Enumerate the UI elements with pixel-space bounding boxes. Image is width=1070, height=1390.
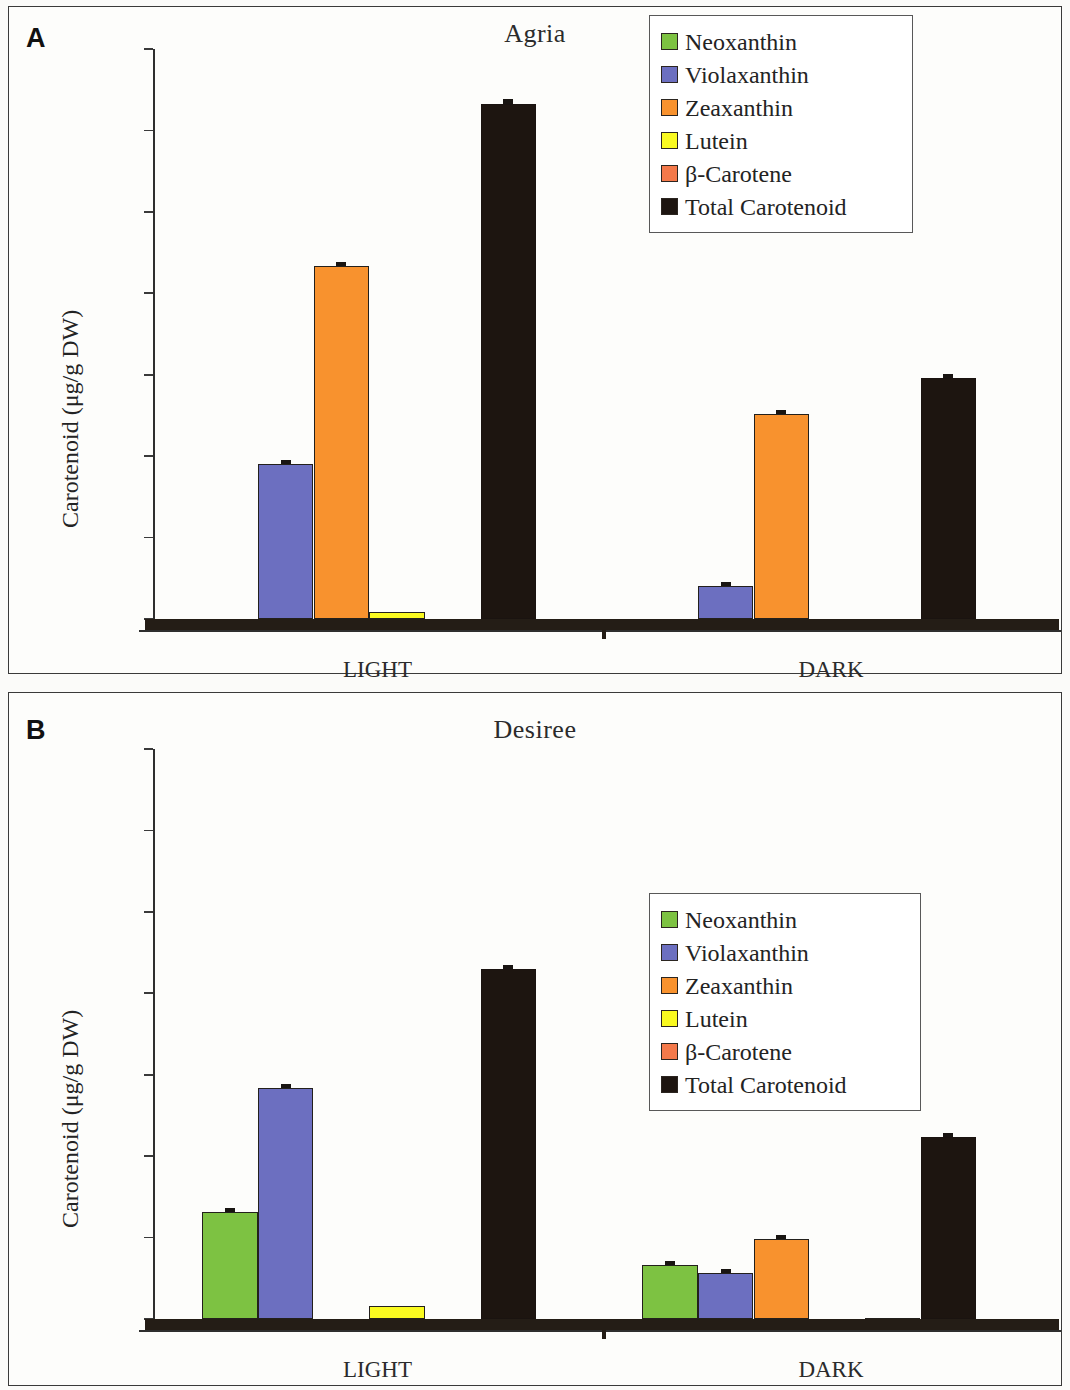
error-bar	[776, 1235, 786, 1239]
y-axis-tick-mark	[144, 992, 153, 994]
legend-swatch-icon	[661, 1043, 678, 1060]
bar-total-carotenoid-dark	[921, 378, 976, 619]
y-axis-tick-mark	[144, 1237, 153, 1239]
x-axis-tick-label-dark: DARK	[798, 657, 863, 683]
y-axis-tick-mark	[144, 830, 153, 832]
bar-total-carotenoid-dark	[921, 1137, 976, 1319]
legend-item-zeaxanthin: Zeaxanthin	[661, 91, 898, 124]
legend-item-label: β-Carotene	[685, 162, 792, 186]
legend-item-neoxanthin: Neoxanthin	[661, 25, 898, 58]
legend-swatch-icon	[661, 1076, 678, 1093]
x-axis-line	[139, 1330, 1061, 1332]
legend-item-label: Violaxanthin	[685, 941, 809, 965]
legend-swatch-icon	[661, 977, 678, 994]
legend-item-label: β-Carotene	[685, 1040, 792, 1064]
x-axis-tick-mark	[602, 630, 606, 639]
y-axis-tick-mark	[144, 211, 153, 213]
legend-swatch-icon	[661, 198, 678, 215]
legend-item-label: Lutein	[685, 1007, 748, 1031]
bar-violaxanthin-dark	[698, 1273, 753, 1319]
y-axis-tick-mark	[144, 292, 153, 294]
legend-swatch-icon	[661, 944, 678, 961]
y-axis-title: Carotenoid (μg/g DW)	[57, 310, 84, 528]
legend-item-label: Neoxanthin	[685, 908, 797, 932]
panel-b-title: Desiree	[9, 715, 1061, 745]
legend-item--carotene: β-Carotene	[661, 157, 898, 190]
legend: NeoxanthinViolaxanthinZeaxanthinLuteinβ-…	[649, 893, 921, 1111]
error-bar	[281, 1084, 291, 1088]
x-axis-tick-mark	[602, 1330, 606, 1339]
error-bar	[336, 262, 346, 266]
legend-item-violaxanthin: Violaxanthin	[661, 936, 906, 969]
bar-zeaxanthin-light	[314, 266, 369, 619]
y-axis-tick-mark	[144, 748, 153, 750]
panel-b: B Desiree 050100150200250300350Carotenoi…	[8, 692, 1062, 1386]
panel-a: A Agria 050100150200250300350Carotenoid …	[8, 6, 1062, 674]
legend-item-label: Lutein	[685, 129, 748, 153]
bar-neoxanthin-light	[202, 1212, 257, 1319]
legend-swatch-icon	[661, 33, 678, 50]
error-bar	[225, 1208, 235, 1212]
legend-item-violaxanthin: Violaxanthin	[661, 58, 898, 91]
x-axis-tick-label-dark: DARK	[798, 1357, 863, 1383]
y-axis-line	[153, 49, 155, 621]
bar-violaxanthin-light	[258, 1088, 313, 1319]
legend-item-total-carotenoid: Total Carotenoid	[661, 1068, 906, 1101]
x-axis-baseline	[145, 619, 1059, 630]
legend-item-label: Zeaxanthin	[685, 96, 793, 120]
legend-item-lutein: Lutein	[661, 124, 898, 157]
y-axis-title: Carotenoid (μg/g DW)	[57, 1010, 84, 1228]
error-bar	[665, 1261, 675, 1265]
error-bar	[503, 965, 513, 969]
legend-swatch-icon	[661, 66, 678, 83]
legend-item-label: Neoxanthin	[685, 30, 797, 54]
legend-item-label: Zeaxanthin	[685, 974, 793, 998]
error-bar	[776, 410, 786, 414]
y-axis-tick-mark	[144, 1074, 153, 1076]
legend-item-lutein: Lutein	[661, 1002, 906, 1035]
legend-swatch-icon	[661, 132, 678, 149]
y-axis-tick-mark	[144, 374, 153, 376]
y-axis-tick-mark	[144, 130, 153, 132]
legend-item-neoxanthin: Neoxanthin	[661, 903, 906, 936]
legend-swatch-icon	[661, 911, 678, 928]
bar-total-carotenoid-light	[481, 104, 536, 619]
bar-zeaxanthin-dark	[754, 414, 809, 619]
legend: NeoxanthinViolaxanthinZeaxanthinLuteinβ-…	[649, 15, 913, 233]
legend-swatch-icon	[661, 1010, 678, 1027]
error-bar	[721, 582, 731, 586]
legend-item-zeaxanthin: Zeaxanthin	[661, 969, 906, 1002]
error-bar	[503, 99, 513, 104]
error-bar	[943, 1133, 953, 1137]
legend-item-total-carotenoid: Total Carotenoid	[661, 190, 898, 223]
bar-lutein-light	[369, 612, 424, 619]
x-axis-tick-label-light: LIGHT	[343, 657, 412, 683]
x-axis-line	[139, 630, 1061, 632]
figure-root: A Agria 050100150200250300350Carotenoid …	[0, 0, 1070, 1390]
y-axis-tick-mark	[144, 455, 153, 457]
bar-zeaxanthin-dark	[754, 1239, 809, 1319]
bar-total-carotenoid-light	[481, 969, 536, 1319]
y-axis-tick-mark	[144, 1155, 153, 1157]
y-axis-tick-mark	[144, 911, 153, 913]
x-axis-baseline	[145, 1319, 1059, 1330]
error-bar	[943, 374, 953, 378]
error-bar	[721, 1269, 731, 1273]
bar-lutein-light	[369, 1306, 424, 1319]
legend-item-label: Total Carotenoid	[685, 1073, 847, 1097]
legend-item-label: Violaxanthin	[685, 63, 809, 87]
error-bar	[281, 460, 291, 464]
y-axis-tick-mark	[144, 537, 153, 539]
bar-violaxanthin-light	[258, 464, 313, 619]
legend-item--carotene: β-Carotene	[661, 1035, 906, 1068]
legend-swatch-icon	[661, 99, 678, 116]
legend-item-label: Total Carotenoid	[685, 195, 847, 219]
y-axis-tick-mark	[144, 48, 153, 50]
y-axis-line	[153, 749, 155, 1321]
legend-swatch-icon	[661, 165, 678, 182]
bar-neoxanthin-dark	[642, 1265, 697, 1319]
x-axis-tick-label-light: LIGHT	[343, 1357, 412, 1383]
bar-violaxanthin-dark	[698, 586, 753, 619]
